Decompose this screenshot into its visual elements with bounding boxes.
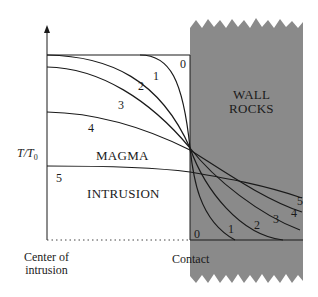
contact-label: Contact: [172, 253, 209, 266]
curve-label-0-magma: 0: [180, 58, 186, 70]
curve-label-1-wall: 1: [228, 223, 234, 235]
curve-label-0-wall: 0: [194, 228, 200, 240]
curve-label-3-wall: 3: [273, 213, 279, 225]
y-axis-arrow-icon: [44, 25, 50, 33]
magma-label: MAGMA: [96, 149, 149, 162]
wall-label: WALL: [233, 88, 270, 101]
curve-label-1-magma: 1: [153, 70, 159, 82]
curve-label-3-magma: 3: [118, 99, 124, 111]
intrusion-label: INTRUSION: [87, 187, 160, 200]
curve-label-2-magma: 2: [138, 80, 144, 92]
curve-label-4-wall: 4: [291, 207, 297, 219]
center-of-intrusion-label: Center of intrusion: [24, 251, 69, 277]
curve-label-4-magma: 4: [88, 122, 94, 134]
curve-label-2-wall: 2: [254, 219, 260, 231]
rocks-label: ROCKS: [229, 102, 274, 115]
y-axis-label: T/T0: [17, 147, 38, 162]
wall-rocks-region: [190, 18, 303, 283]
curve-label-5-magma: 5: [56, 172, 62, 184]
curve-label-5-wall: 5: [297, 195, 303, 207]
